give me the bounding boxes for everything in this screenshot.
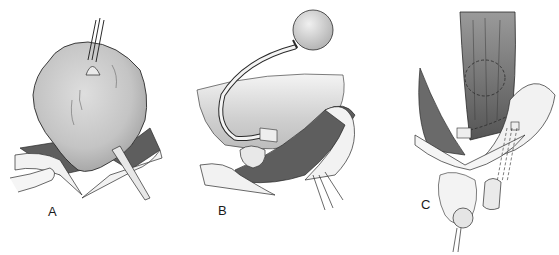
panel-b: B: [185, 0, 385, 255]
panel-c: C: [385, 0, 559, 255]
surgical-illustration-figure: A: [0, 0, 559, 255]
panel-b-drawing: [185, 0, 385, 255]
panel-a-label: A: [48, 204, 57, 219]
panel-c-label: C: [421, 197, 430, 212]
panel-a: A: [0, 0, 185, 255]
panel-b-label: B: [218, 203, 227, 218]
panel-a-drawing: [0, 0, 185, 255]
panel-c-drawing: [385, 0, 559, 255]
